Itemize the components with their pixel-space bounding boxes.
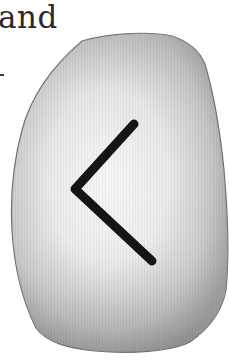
rune-stone-illustration [0,0,229,364]
stone-body [0,0,229,364]
